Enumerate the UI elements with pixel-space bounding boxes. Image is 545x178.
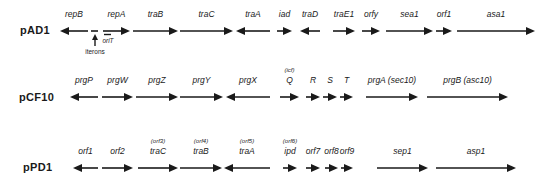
arrowhead-icon [169,93,178,101]
arrowhead-icon [499,93,508,101]
arrowhead-icon [419,164,428,172]
arrowhead-icon [311,164,320,172]
arrowhead-icon [224,27,233,35]
arrowhead-icon [328,93,337,101]
arrowhead-icon [121,27,130,35]
arrowhead-icon [526,27,535,35]
arrowhead-icon [344,164,353,172]
arrowhead-icon [60,27,69,35]
arrowhead-icon [214,93,223,101]
arrowhead-icon [226,93,235,101]
arrowhead-icon [224,164,233,172]
arrowhead-icon [344,93,353,101]
up-arrow-icon [92,34,98,40]
arrowhead-icon [124,93,133,101]
gene-arrows [0,0,545,178]
arrowhead-icon [300,27,309,35]
arrowhead-icon [424,27,433,35]
arrowhead-icon [329,164,338,172]
arrowhead-icon [283,27,292,35]
arrowhead-icon [70,93,79,101]
arrowhead-icon [507,164,516,172]
arrowhead-icon [371,27,380,35]
arrowhead-icon [409,93,418,101]
arrowhead-icon [288,164,297,172]
arrowhead-icon [169,164,178,172]
arrowhead-icon [443,27,452,35]
arrowhead-icon [73,164,82,172]
arrowhead-icon [290,93,299,101]
arrowhead-icon [124,164,133,172]
arrowhead-icon [213,164,222,172]
arrowhead-icon [346,27,355,35]
arrowhead-icon [236,27,245,35]
arrowhead-icon [169,27,178,35]
arrowhead-icon [311,93,320,101]
